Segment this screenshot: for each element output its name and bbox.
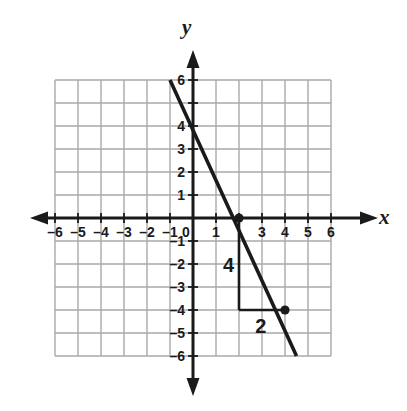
data-point bbox=[234, 213, 243, 222]
x-tick-label: –3 bbox=[116, 224, 132, 240]
x-tick-label: –4 bbox=[93, 224, 109, 240]
y-tick-label: –5 bbox=[169, 325, 185, 341]
y-axis-arrow-up bbox=[187, 50, 200, 68]
graph-canvas: –6–5–4–3–2–1013456–6–5–4–3–2–11234642 bbox=[0, 0, 407, 411]
x-tick-label: –2 bbox=[139, 224, 155, 240]
y-tick-label: 4 bbox=[177, 118, 185, 134]
coordinate-plane-figure: –6–5–4–3–2–1013456–6–5–4–3–2–11234642 y … bbox=[0, 0, 407, 411]
y-axis-arrow-down bbox=[187, 378, 200, 396]
x-tick-label: –5 bbox=[70, 224, 86, 240]
y-tick-label: –6 bbox=[169, 348, 185, 364]
x-tick-label: 4 bbox=[281, 224, 289, 240]
slope-label-rise: 4 bbox=[223, 254, 235, 276]
y-tick-label: 1 bbox=[177, 187, 185, 203]
y-tick-label: –1 bbox=[169, 233, 185, 249]
x-tick-label: 5 bbox=[304, 224, 312, 240]
x-tick-label: 3 bbox=[258, 224, 266, 240]
data-point bbox=[280, 305, 289, 314]
y-tick-label: 6 bbox=[177, 72, 185, 88]
slope-triangle: 42 bbox=[223, 218, 285, 337]
x-tick-label: 1 bbox=[212, 224, 220, 240]
x-tick-label: 6 bbox=[327, 224, 335, 240]
x-tick-label: –6 bbox=[47, 224, 63, 240]
y-tick-label: 2 bbox=[177, 164, 185, 180]
y-tick-label: –4 bbox=[169, 302, 185, 318]
x-axis-arrow-left bbox=[30, 212, 48, 225]
y-tick-label: 3 bbox=[177, 141, 185, 157]
slope-label-run: 2 bbox=[255, 315, 266, 337]
x-axis-label: x bbox=[379, 207, 390, 228]
y-axis-label: y bbox=[182, 17, 191, 38]
y-tick-label: –2 bbox=[169, 256, 185, 272]
axes bbox=[30, 50, 378, 396]
y-tick-label: –3 bbox=[169, 279, 185, 295]
x-axis-arrow-right bbox=[360, 212, 378, 225]
